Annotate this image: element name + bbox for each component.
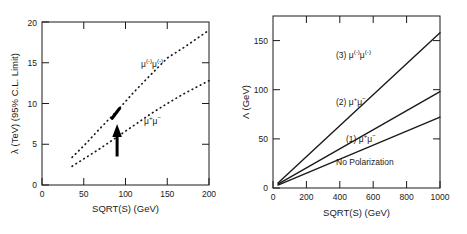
right-label-curve-1: (1) μ+μ−: [346, 132, 376, 144]
right-ytick-label-150: 150: [254, 36, 268, 46]
left-label-mu-minus-mu-minus: μ(-)μ(-): [141, 57, 163, 69]
right-curve-1: [278, 117, 440, 185]
right-xtick-label-200: 200: [299, 192, 313, 202]
right-label-2-index: (2): [336, 97, 347, 107]
left-curve-mu-plus-mu-minus: [72, 81, 209, 167]
left-label-upper-sup2: (-): [157, 57, 163, 64]
left-xtick-label-50: 50: [79, 189, 89, 199]
left-curve-mu-minus-mu-minus: [72, 30, 209, 157]
left-ytick-label-0: 0: [32, 180, 37, 190]
right-label-curve-2: (2) μ+μ−: [336, 95, 366, 107]
right-no-polarization-note: No Polarization: [336, 157, 394, 167]
left-x-ticks: [42, 22, 209, 185]
left-ytick-label-5: 5: [32, 139, 37, 149]
right-ytick-label-0: 0: [263, 183, 268, 193]
left-ytick-label-10: 10: [28, 99, 38, 109]
right-ytick-label-100: 100: [254, 85, 268, 95]
right-label-3-index: (3): [336, 50, 347, 60]
right-xtick-label-0: 0: [271, 192, 276, 202]
right-chart-svg: 0 50 100 150 0 200 400 600 800 1000 SQRT…: [233, 0, 467, 234]
right-xtick-label-1000: 1000: [431, 192, 450, 202]
left-y-axis-title: λ (TeV) (95% C.L. Limit): [9, 53, 20, 154]
right-xtick-label-400: 400: [333, 192, 347, 202]
svg-text:μ+μ−: μ+μ−: [144, 114, 161, 126]
left-upward-arrow: [112, 124, 122, 157]
right-label-3-sup2: (-): [365, 48, 371, 55]
right-ytick-label-50: 50: [259, 134, 269, 144]
right-xtick-label-600: 600: [366, 192, 380, 202]
right-label-curve-3: (3) μ(-)μ(-): [336, 48, 371, 60]
svg-text:μ(-)μ(-): μ(-)μ(-): [141, 57, 163, 69]
left-ytick-label-20: 20: [28, 18, 38, 28]
figure-root: 0 5 10 15 20 0 50 100 150 200 SQRT(S) (G…: [0, 0, 467, 234]
right-xtick-label-800: 800: [400, 192, 414, 202]
left-label-mu-plus-mu-minus: μ+μ−: [144, 114, 161, 126]
left-y-ticks: [42, 22, 209, 185]
left-label-lower-sup2: −: [157, 114, 161, 121]
left-ytick-label-15: 15: [28, 58, 38, 68]
left-xtick-label-0: 0: [40, 189, 45, 199]
left-plot-frame: [42, 22, 209, 185]
left-x-axis-title: SQRT(S) (GeV): [92, 203, 159, 214]
chart-panel-right: 0 50 100 150 0 200 400 600 800 1000 SQRT…: [233, 0, 467, 234]
left-measured-limit-segment: [112, 108, 120, 118]
left-xtick-label-200: 200: [202, 189, 216, 199]
left-xtick-label-150: 150: [160, 189, 174, 199]
right-label-1-sup2: −: [372, 132, 376, 139]
right-label-2-sup2: −: [362, 95, 366, 102]
chart-panel-left: 0 5 10 15 20 0 50 100 150 200 SQRT(S) (G…: [0, 0, 234, 234]
right-y-axis-title: Λ (GeV): [240, 85, 251, 119]
right-x-axis-title: SQRT(S) (GeV): [323, 207, 390, 218]
left-chart-svg: 0 5 10 15 20 0 50 100 150 200 SQRT(S) (G…: [0, 0, 234, 234]
left-xtick-label-100: 100: [118, 189, 132, 199]
right-label-1-index: (1): [346, 134, 357, 144]
